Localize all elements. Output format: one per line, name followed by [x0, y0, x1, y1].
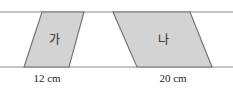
- geometry-canvas: 가 나 12 cm 20 cm: [0, 0, 233, 90]
- dimension-label-na: 20 cm: [159, 72, 187, 84]
- geometry-figure: 가 나 12 cm 20 cm: [0, 0, 233, 90]
- shape-label-ga: 가: [49, 33, 60, 47]
- shape-label-na: 나: [158, 33, 169, 47]
- dimension-label-ga: 12 cm: [33, 72, 61, 84]
